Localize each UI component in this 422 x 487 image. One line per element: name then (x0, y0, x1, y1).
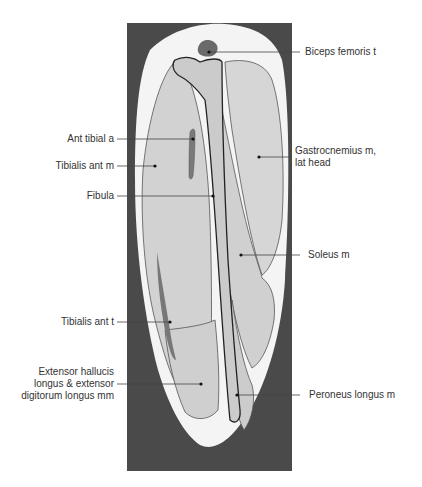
anatomy-figure: Biceps femoris t Gastrocnemius m, lat he… (0, 0, 422, 487)
label-extensor-line1: Extensor hallucis (21, 366, 114, 378)
label-ant-tibial-a: Ant tibial a (67, 133, 114, 145)
leg-cross-section-diagram (0, 0, 422, 487)
label-tibialis-ant-t: Tibialis ant t (61, 316, 114, 328)
label-extensor-line2: longus & extensor (21, 378, 114, 390)
label-extensor-line3: digitorum longus mm (21, 390, 114, 402)
label-gastrocnemius: Gastrocnemius m, lat head (295, 145, 405, 169)
label-extensor-muscles: Extensor hallucis longus & extensor digi… (21, 366, 114, 402)
label-biceps-femoris-t: Biceps femoris t (305, 46, 376, 58)
label-soleus-m: Soleus m (308, 249, 350, 261)
label-gastrocnemius-line2: lat head (295, 157, 405, 169)
label-fibula: Fibula (87, 190, 114, 202)
label-gastrocnemius-line1: Gastrocnemius m, (295, 145, 405, 157)
label-peroneus-longus-m: Peroneus longus m (309, 389, 395, 401)
label-tibialis-ant-m: Tibialis ant m (55, 160, 114, 172)
